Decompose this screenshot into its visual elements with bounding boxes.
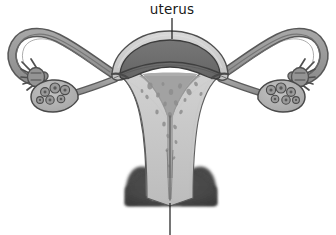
follicle-oocyte	[295, 99, 297, 101]
follicle-oocyte	[285, 99, 288, 102]
fallopian-tube-right	[224, 32, 324, 80]
follicle-oocyte	[39, 99, 41, 101]
anatomical-figure: uterus	[0, 0, 336, 235]
follicle-oocyte	[44, 91, 47, 94]
left-adnexa	[12, 32, 115, 112]
uterus-diagram: uterus	[0, 0, 336, 235]
follicle-oocyte	[53, 86, 56, 89]
follicle-oocyte	[63, 88, 66, 91]
fallopian-tube-left	[12, 32, 112, 80]
follicle-oocyte	[60, 98, 63, 101]
follicle-oocyte	[49, 99, 52, 102]
follicle-oocyte	[279, 86, 282, 89]
follicle-oocyte	[274, 98, 277, 101]
ovarian-ligament-right	[221, 79, 264, 94]
follicle-oocyte	[269, 88, 272, 91]
ovarian-ligament-left	[72, 79, 115, 94]
follicle-oocyte	[290, 91, 293, 94]
uterus-label-text: uterus	[150, 1, 195, 17]
right-adnexa	[221, 32, 324, 112]
